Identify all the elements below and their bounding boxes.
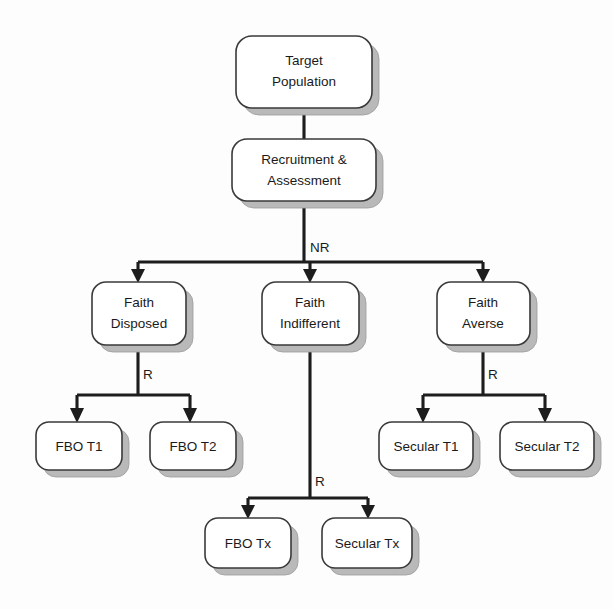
node-label-line1: Secular Tx: [335, 536, 400, 551]
node-label-line1: Secular T2: [514, 439, 579, 454]
node-label-line2: Disposed: [111, 316, 167, 331]
edge-label-r-left: R: [143, 367, 153, 382]
node-label-line1: Recruitment &: [261, 152, 347, 167]
node-faith-averse[interactable]: Faith Averse: [437, 282, 537, 352]
arrowhead-faith-disposed: [131, 269, 145, 283]
node-body: [437, 282, 530, 345]
arrowhead-fbo-tx: [241, 505, 255, 519]
arrowhead-fbo-t1: [70, 408, 84, 423]
node-body: [236, 36, 372, 108]
edge-label-nr: NR: [310, 240, 330, 255]
node-faith-disposed[interactable]: Faith Disposed: [92, 282, 193, 352]
node-faith-indifferent[interactable]: Faith Indifferent: [262, 282, 366, 352]
arrowhead-secular-t2: [538, 408, 552, 423]
node-label-line2: Assessment: [267, 173, 341, 188]
node-label-line1: Secular T1: [393, 439, 458, 454]
edge-label-r-center: R: [315, 474, 325, 489]
node-label-line1: Faith: [468, 295, 498, 310]
node-label-line1: FBO T2: [169, 439, 216, 454]
flowchart-diagram: Target Population Recruitment & Assessme…: [0, 0, 613, 609]
arrowhead-faith-averse: [476, 269, 490, 283]
arrowhead-faith-indifferent: [303, 269, 317, 283]
node-label-line1: Faith: [295, 295, 325, 310]
arrowhead-fbo-t2: [183, 408, 197, 423]
flowchart-canvas: Target Population Recruitment & Assessme…: [0, 0, 613, 609]
node-body: [262, 282, 359, 345]
node-fbo-t1[interactable]: FBO T1: [36, 422, 129, 477]
edge-label-r-right: R: [488, 367, 498, 382]
arrowhead-secular-tx: [361, 505, 375, 519]
node-label-line2: Averse: [462, 316, 504, 331]
node-fbo-t2[interactable]: FBO T2: [150, 422, 243, 477]
node-body: [232, 139, 376, 201]
node-secular-t1[interactable]: Secular T1: [379, 422, 480, 477]
node-label-line1: FBO T1: [55, 439, 102, 454]
node-label-line2: Population: [272, 74, 336, 89]
node-recruitment-assessment[interactable]: Recruitment & Assessment: [232, 139, 383, 208]
node-label-line1: Target: [285, 53, 323, 68]
node-secular-t2[interactable]: Secular T2: [500, 422, 601, 477]
node-label-line2: Indifferent: [280, 316, 340, 331]
arrowhead-secular-t1: [416, 408, 430, 423]
node-body: [92, 282, 186, 345]
node-label-line1: Faith: [124, 295, 154, 310]
node-target-population[interactable]: Target Population: [236, 36, 379, 115]
node-label-line1: FBO Tx: [225, 536, 272, 551]
node-secular-tx[interactable]: Secular Tx: [322, 518, 419, 575]
node-fbo-tx[interactable]: FBO Tx: [205, 518, 298, 575]
